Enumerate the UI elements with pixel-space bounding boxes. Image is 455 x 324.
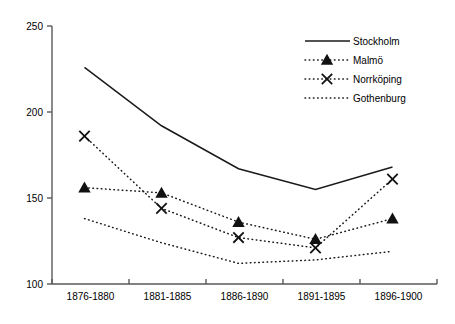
data-point-marker <box>78 181 90 192</box>
data-point-marker <box>310 243 320 253</box>
legend-item-gothenburg[interactable]: Gothenburg <box>305 93 406 104</box>
legend-label: Malmö <box>353 55 383 66</box>
x-tick-label: 1876-1880 <box>67 291 115 302</box>
series-line <box>85 67 393 189</box>
legend-item-malm-[interactable]: Malmö <box>305 54 383 66</box>
legend-label: Gothenburg <box>353 93 406 104</box>
y-tick-label: 250 <box>26 21 43 32</box>
data-point-marker <box>79 131 89 141</box>
x-tick-label: 1886-1890 <box>221 291 269 302</box>
data-point-marker <box>232 216 244 227</box>
series-line <box>85 136 393 248</box>
y-tick-label: 150 <box>26 193 43 204</box>
x-axis: 1876-18801881-18851886-18901891-18951896… <box>52 279 437 302</box>
legend-item-norrk-ping[interactable]: Norrköping <box>305 74 402 85</box>
x-tick-label: 1896-1900 <box>375 291 423 302</box>
data-point-marker <box>155 187 167 198</box>
legend-label: Norrköping <box>353 74 402 85</box>
y-axis: 100150200250 <box>26 21 52 290</box>
data-point-marker <box>156 203 166 213</box>
series-layer <box>78 67 398 263</box>
y-tick-label: 100 <box>26 279 43 290</box>
data-point-marker <box>387 174 397 184</box>
chart-legend: StockholmMalmöNorrköpingGothenburg <box>305 36 406 104</box>
series-stockholm <box>85 67 393 189</box>
series-norrk-ping <box>79 131 397 253</box>
y-tick-label: 200 <box>26 107 43 118</box>
line-chart: 100150200250 1876-18801881-18851886-1890… <box>0 0 455 324</box>
legend-label: Stockholm <box>353 36 400 47</box>
series-line <box>85 188 393 240</box>
x-tick-label: 1891-1895 <box>298 291 346 302</box>
legend-item-stockholm[interactable]: Stockholm <box>305 36 400 47</box>
x-tick-label: 1881-1885 <box>144 291 192 302</box>
data-point-marker <box>233 232 243 242</box>
chart-canvas: 100150200250 1876-18801881-18851886-1890… <box>0 0 455 324</box>
data-point-marker <box>386 212 398 223</box>
series-malm- <box>78 181 398 244</box>
